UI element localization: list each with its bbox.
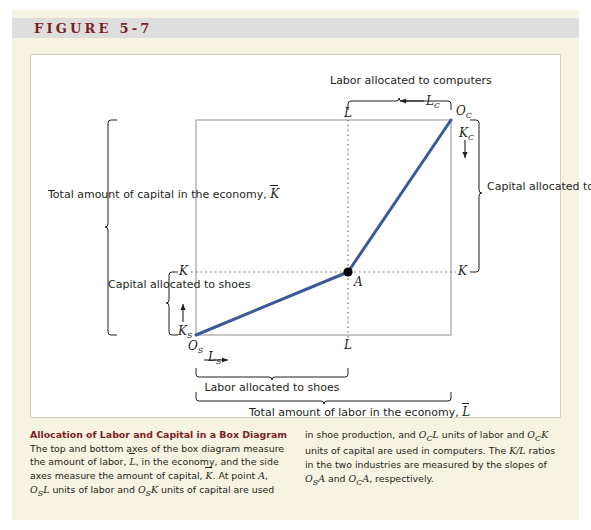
label-origin-computers: OC	[456, 104, 472, 121]
label-kc: KC	[459, 126, 474, 143]
label-total-labor: Total amount of labor in the economy, L	[249, 405, 399, 420]
label-point-a: A	[354, 275, 363, 290]
label-bottom-axis-L: L	[344, 338, 352, 353]
caption-var-ocl: OCL	[419, 429, 439, 440]
label-total-capital-var: K	[270, 187, 279, 202]
caption-text-3: . At point	[213, 470, 259, 481]
label-ls: LS	[208, 350, 221, 367]
caption-heading: Allocation of Labor and Capital in a Box…	[30, 429, 287, 440]
label-lc: LC	[426, 94, 440, 111]
caption-right-text-2: units of labor and	[439, 429, 528, 440]
caption-var-kl: K/L	[509, 445, 525, 456]
caption-var-L: L	[129, 455, 135, 469]
caption-var-K: K	[205, 469, 212, 483]
figure-caption: Allocation of Labor and Capital in a Box…	[30, 428, 564, 499]
label-total-capital: Total amount of capital in the economy, …	[48, 187, 106, 202]
label-capital-allocated-shoes: Capital allocated to shoes	[108, 278, 170, 292]
figure-number-label: FIGURE 5-7	[34, 21, 152, 36]
caption-text-5: units of labor and	[49, 484, 138, 495]
caption-text-4: ,	[265, 470, 268, 481]
caption-right-text-1: in shoe production, and	[305, 429, 419, 440]
label-labor-allocated-shoes: Labor allocated to shoes	[202, 381, 342, 395]
caption-right-text-6: , respectively.	[369, 473, 434, 484]
caption-text-6: units of capital are used	[158, 484, 274, 495]
caption-column-left: Allocation of Labor and Capital in a Box…	[30, 428, 289, 499]
label-capital-allocated-computers: Capital allocated to computers	[487, 180, 567, 194]
label-origin-shoes: OS	[188, 339, 203, 356]
label-top-axis-L: L	[344, 106, 352, 121]
caption-column-right: in shoe production, and OCL units of lab…	[305, 428, 564, 499]
label-labor-allocated-computers: Labor allocated to computers	[330, 74, 470, 88]
label-right-axis-K: K	[458, 264, 467, 279]
caption-var-ock: OCK	[527, 429, 548, 440]
caption-var-osa: OSA	[305, 473, 325, 484]
caption-var-oca: OCA	[349, 473, 370, 484]
diagram-canvas	[30, 54, 561, 418]
caption-var-osk: OSK	[138, 484, 158, 495]
label-total-labor-var: L	[462, 405, 470, 420]
caption-right-text-3: units of capital are used in computers. …	[305, 445, 509, 456]
caption-right-text-5: and	[325, 473, 349, 484]
label-left-axis-K: K	[179, 264, 188, 279]
caption-var-osl: OSL	[30, 484, 49, 495]
